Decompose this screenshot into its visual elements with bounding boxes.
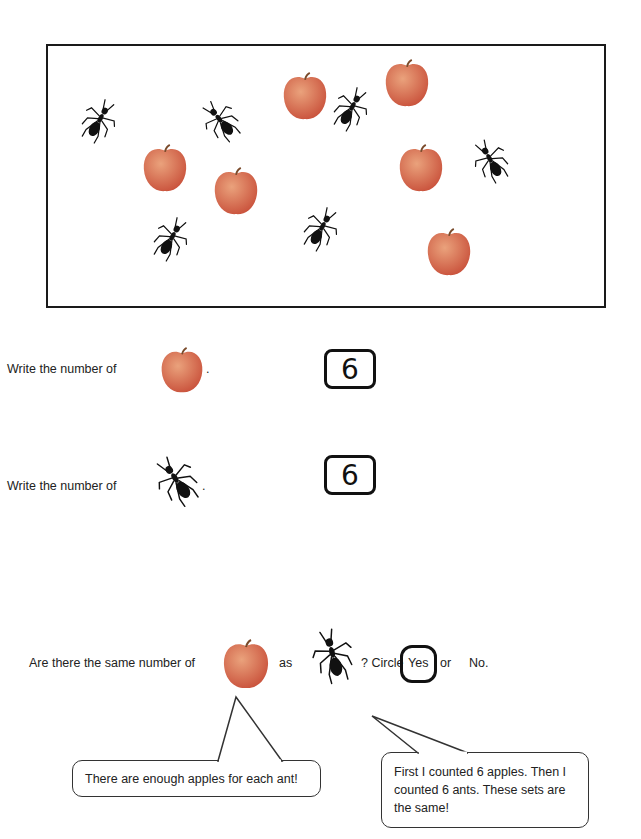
speech-bubble-right-tail — [0, 0, 641, 839]
